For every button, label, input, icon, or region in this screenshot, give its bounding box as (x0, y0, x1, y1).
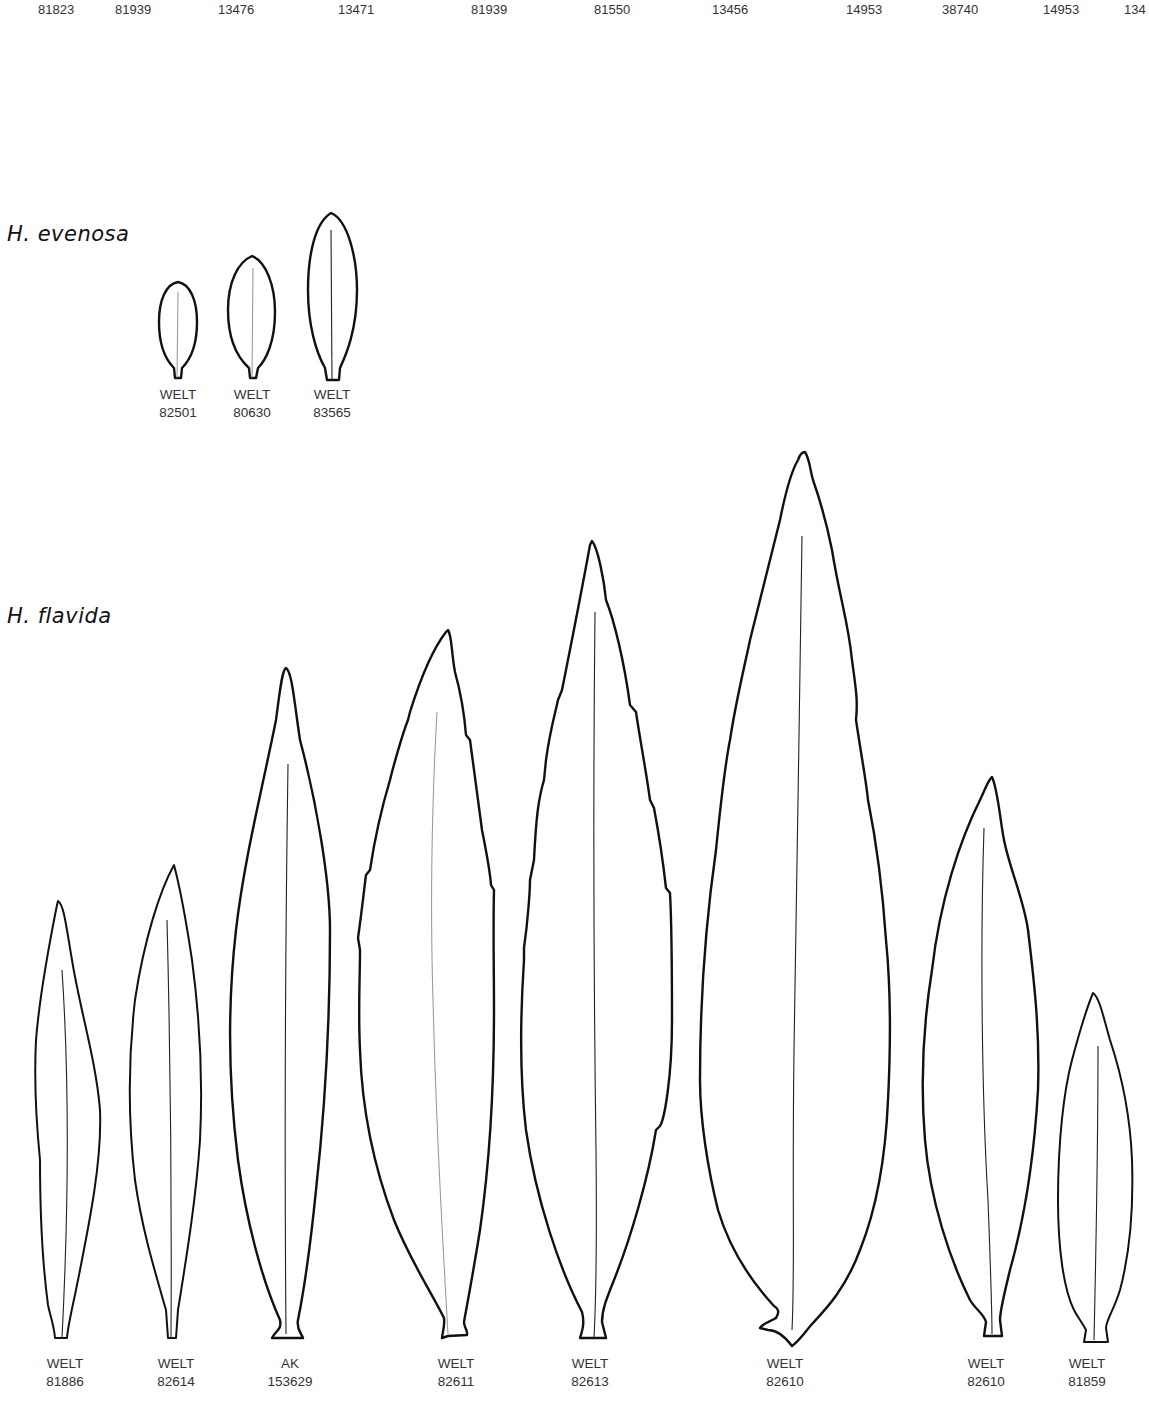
specimen-label: WELT 82501 (138, 386, 218, 422)
herbarium-code: WELT (138, 386, 218, 404)
specimen-number: 80630 (212, 404, 292, 422)
herbarium-code: WELT (946, 1355, 1026, 1373)
leaf-flavida-82614 (130, 865, 201, 1338)
leaf-evenosa-83565 (308, 213, 357, 380)
specimen-number: 82610 (745, 1373, 825, 1391)
specimen-label: WELT 82611 (416, 1355, 496, 1391)
specimen-number: 82614 (136, 1373, 216, 1391)
specimen-label: WELT 81886 (25, 1355, 105, 1391)
specimen-label: WELT 82610 (745, 1355, 825, 1391)
specimen-label: WELT 82614 (136, 1355, 216, 1391)
specimen-label: AK 153629 (250, 1355, 330, 1391)
leaf-evenosa-80630 (228, 256, 275, 378)
leaf-evenosa-82501 (159, 282, 197, 378)
herbarium-code: WELT (416, 1355, 496, 1373)
specimen-label: WELT 82613 (550, 1355, 630, 1391)
leaf-flavida-AK153629 (230, 668, 330, 1338)
herbarium-code: WELT (136, 1355, 216, 1373)
herbarium-code: WELT (292, 386, 372, 404)
leaf-flavida-82611 (358, 630, 494, 1338)
specimen-number: 82613 (550, 1373, 630, 1391)
specimen-label: WELT 83565 (292, 386, 372, 422)
herbarium-code: WELT (25, 1355, 105, 1373)
specimen-label: WELT 81859 (1047, 1355, 1127, 1391)
leaf-flavida-82613 (521, 541, 672, 1338)
specimen-number: 82610 (946, 1373, 1026, 1391)
specimen-number: 82501 (138, 404, 218, 422)
specimen-number: 81886 (25, 1373, 105, 1391)
specimen-number: 81859 (1047, 1373, 1127, 1391)
herbarium-code: WELT (1047, 1355, 1127, 1373)
herbarium-code: WELT (745, 1355, 825, 1373)
herbarium-code: AK (250, 1355, 330, 1373)
leaf-flavida-81886 (35, 901, 100, 1338)
leaf-flavida-81859 (1058, 993, 1132, 1342)
leaf-flavida-82610-b (923, 777, 1039, 1336)
specimen-number: 82611 (416, 1373, 496, 1391)
leaf-illustrations (0, 0, 1149, 1413)
leaf-flavida-82610-a (700, 452, 890, 1346)
specimen-label: WELT 80630 (212, 386, 292, 422)
herbarium-code: WELT (212, 386, 292, 404)
specimen-label: WELT 82610 (946, 1355, 1026, 1391)
specimen-number: 83565 (292, 404, 372, 422)
herbarium-code: WELT (550, 1355, 630, 1373)
specimen-number: 153629 (250, 1373, 330, 1391)
